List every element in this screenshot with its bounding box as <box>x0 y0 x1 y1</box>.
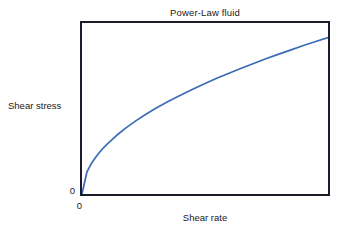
x-axis-tick-zero: 0 <box>74 200 85 211</box>
y-axis-label: Shear stress <box>8 100 61 111</box>
x-axis-label: Shear rate <box>80 212 330 223</box>
plot-svg <box>82 23 328 194</box>
y-axis-tick-zero: 0 <box>64 185 75 196</box>
chart-title: Power-Law fluid <box>80 7 330 18</box>
chart-figure: Power-Law fluid Shear stress Shear rate … <box>0 0 343 236</box>
plot-area <box>80 21 330 196</box>
data-series-power-law-fluid <box>82 38 328 194</box>
